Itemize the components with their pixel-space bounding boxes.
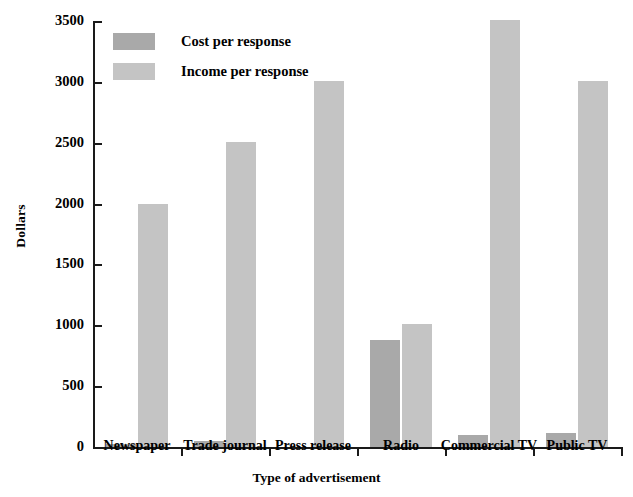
y-tick-label: 2000 (55, 195, 84, 212)
bar (226, 142, 256, 448)
y-axis-title: Dollars (13, 186, 29, 266)
x-category-label: Commercial TV (441, 438, 537, 454)
bar (490, 20, 520, 447)
x-tick-mark (357, 447, 359, 456)
y-tick-label: 1000 (55, 316, 84, 333)
legend-label-income: Income per response (181, 63, 309, 80)
bar (402, 324, 432, 447)
bar (578, 81, 608, 447)
y-tick-label: 500 (62, 377, 84, 394)
x-category-label: Trade journal (183, 438, 266, 454)
y-tick-label: 1500 (55, 255, 84, 272)
legend-item-income: Income per response (113, 56, 309, 86)
y-tick-label: 3500 (55, 12, 84, 29)
x-category-label: Radio (383, 438, 419, 454)
y-tick-label: 0 (77, 438, 84, 455)
x-tick-mark (621, 447, 623, 456)
x-category-label: Press release (275, 438, 351, 454)
bar (370, 340, 400, 447)
bar (138, 204, 168, 447)
x-category-label: Public TV (547, 438, 608, 454)
bar-chart: Dollars 0500100015002000250030003500 Cos… (0, 0, 633, 497)
legend-swatch-income (113, 63, 155, 80)
bar (314, 81, 344, 447)
y-tick-label: 2500 (55, 134, 84, 151)
x-axis-title: Type of advertisement (0, 470, 633, 486)
y-tick: 0 (93, 447, 102, 449)
x-category-label: Newspaper (104, 438, 171, 454)
y-tick-mark (93, 447, 102, 449)
legend-swatch-cost (113, 33, 155, 50)
plot-area: 0500100015002000250030003500 Cost per re… (93, 21, 621, 447)
x-tick-mark (269, 447, 271, 456)
legend: Cost per response Income per response (113, 26, 309, 86)
y-tick-label: 3000 (55, 73, 84, 90)
legend-item-cost: Cost per response (113, 26, 309, 56)
legend-label-cost: Cost per response (181, 33, 291, 50)
